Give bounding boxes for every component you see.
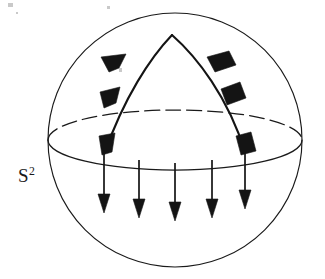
equator-back-arc xyxy=(48,110,302,140)
scan-speck xyxy=(107,6,110,9)
field-arrow xyxy=(239,152,251,209)
tangent-arrowhead-icon xyxy=(100,87,120,108)
figure-canvas: S2 xyxy=(0,0,325,279)
field-arrowhead-icon xyxy=(206,199,218,218)
sphere-label-base: S xyxy=(18,165,29,186)
field-arrow xyxy=(169,163,181,221)
tangent-arrowheads-right xyxy=(207,51,256,155)
sphere-outline xyxy=(48,13,302,267)
scan-speck xyxy=(119,68,122,72)
scan-speck xyxy=(16,12,18,14)
field-arrow xyxy=(98,152,110,213)
sphere-diagram-svg xyxy=(0,0,325,279)
field-arrowhead-icon xyxy=(133,199,145,218)
tangent-arrowhead-icon xyxy=(207,51,236,72)
sphere-label-exponent: 2 xyxy=(29,165,35,178)
downward-vector-field xyxy=(98,152,251,221)
scan-speck xyxy=(8,3,13,7)
tangent-arrowhead-icon xyxy=(99,133,115,155)
field-arrowhead-icon xyxy=(239,190,251,209)
tangent-arrowhead-icon xyxy=(236,132,256,155)
tangent-arrowhead-icon xyxy=(101,54,126,72)
field-arrowhead-icon xyxy=(98,194,110,213)
field-arrowhead-icon xyxy=(169,202,181,221)
sphere-label: S2 xyxy=(18,166,35,185)
